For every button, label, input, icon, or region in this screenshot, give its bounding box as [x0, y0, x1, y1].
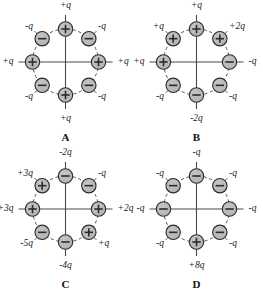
charge-leader-tick — [166, 90, 168, 92]
panel-c-stage: -2q-q+2q+q-4q-5q+3q+3q — [0, 147, 131, 272]
charge-s-negative — [189, 88, 203, 102]
charge-sw-negative — [166, 225, 181, 240]
charge-ne-positive — [213, 31, 228, 46]
charge-s-negative — [58, 235, 72, 249]
panel-b-diagram — [131, 0, 262, 125]
charge-e-positive — [91, 55, 105, 69]
charge-s-positive — [189, 235, 203, 249]
charge-panel-d: -q-q-q-q+8q-q-q-q D — [131, 147, 262, 294]
charge-label-nw: -q — [156, 170, 164, 180]
charge-leader-tick — [35, 90, 37, 92]
charge-leader-tick — [94, 237, 96, 239]
charge-se-positive — [82, 225, 97, 240]
panel-a-stage: +q-q+q-q+q-q+q-q — [0, 0, 131, 125]
charge-leader-tick — [35, 237, 37, 239]
charge-sw-negative — [35, 225, 50, 240]
charge-leader-tick — [35, 31, 37, 33]
charge-w-positive — [25, 202, 39, 216]
charge-label-nw: +q — [153, 23, 164, 32]
charge-label-se: -q — [98, 92, 106, 102]
charge-label-n: -q — [193, 148, 201, 158]
charge-label-w: +q — [133, 57, 144, 67]
charge-n-negative — [189, 169, 203, 183]
panel-b-stage: +q+2q-q-q-2q-q+q+q — [131, 0, 262, 125]
charge-label-e: -q — [249, 204, 257, 214]
charge-label-e: -q — [249, 57, 257, 67]
charge-e-positive — [91, 202, 105, 216]
panel-c-diagram — [0, 147, 131, 272]
charge-leader-tick — [166, 31, 168, 33]
figure-root: +q-q+q-q+q-q+q-q A +q+2q-q-q-2q-q+q+q B … — [0, 0, 263, 294]
charge-panel-c: -2q-q+2q+q-4q-5q+3q+3q C — [0, 147, 131, 294]
panel-b-caption: B — [131, 131, 262, 143]
charge-sw-negative — [35, 78, 50, 93]
charge-leader-tick — [94, 178, 96, 180]
panel-d-stage: -q-q-q-q+8q-q-q-q — [131, 147, 262, 272]
charge-n-positive — [58, 22, 72, 36]
charge-label-sw: -q — [156, 239, 164, 249]
charge-leader-tick — [225, 90, 227, 92]
charge-ne-negative — [213, 178, 228, 193]
charge-leader-tick — [166, 178, 168, 180]
charge-n-positive — [189, 22, 203, 36]
charge-label-se: -q — [229, 239, 237, 249]
charge-label-w: +q — [2, 57, 13, 67]
charge-label-nw: -q — [25, 23, 33, 32]
charge-se-negative — [213, 225, 228, 240]
charge-panel-b: +q+2q-q-q-2q-q+q+q B — [131, 0, 262, 147]
charge-label-s: -2q — [190, 114, 203, 124]
charge-label-s: +q — [60, 114, 71, 124]
charge-label-n: +q — [60, 1, 71, 11]
charge-label-sw: -q — [156, 92, 164, 102]
charge-ne-negative — [82, 178, 97, 193]
charge-sw-negative — [166, 78, 181, 93]
charge-nw-positive — [35, 178, 50, 193]
panel-d-caption: D — [131, 278, 262, 290]
charge-label-se: +q — [98, 239, 109, 249]
charge-leader-tick — [166, 237, 168, 239]
charge-label-e: +q — [118, 57, 129, 67]
charge-leader-tick — [94, 31, 96, 33]
charge-label-n: -2q — [59, 148, 72, 158]
panel-a-diagram — [0, 0, 131, 125]
charge-leader-tick — [225, 31, 227, 33]
panel-c-caption: C — [0, 278, 131, 290]
charge-leader-tick — [225, 237, 227, 239]
charge-leader-tick — [35, 178, 37, 180]
charge-label-ne: -q — [98, 170, 106, 180]
charge-label-ne: -q — [229, 170, 237, 180]
charge-nw-negative — [166, 178, 181, 193]
charge-n-negative — [58, 169, 72, 183]
charge-w-positive — [25, 55, 39, 69]
charge-s-positive — [58, 88, 72, 102]
charge-label-s: +8q — [189, 261, 205, 271]
charge-w-negative — [156, 202, 170, 216]
charge-label-ne: +2q — [229, 23, 245, 32]
charge-label-w: +3q — [0, 204, 14, 214]
charge-leader-tick — [225, 178, 227, 180]
charge-e-negative — [222, 202, 236, 216]
charge-label-ne: -q — [98, 23, 106, 32]
charge-label-n: +q — [191, 1, 202, 11]
charge-se-negative — [82, 78, 97, 93]
charge-label-sw: -q — [25, 92, 33, 102]
charge-e-negative — [222, 55, 236, 69]
charge-label-w: -q — [137, 204, 145, 214]
charge-se-negative — [213, 78, 228, 93]
charge-leader-tick — [94, 90, 96, 92]
charge-nw-negative — [35, 31, 50, 46]
charge-label-nw: +3q — [17, 170, 33, 180]
panel-a-caption: A — [0, 131, 131, 143]
charge-panel-a: +q-q+q-q+q-q+q-q A — [0, 0, 131, 147]
charge-w-positive — [156, 55, 170, 69]
panel-d-diagram — [131, 147, 262, 272]
charge-label-s: -4q — [59, 261, 72, 271]
charge-label-sw: -5q — [20, 239, 33, 249]
charge-label-se: -q — [229, 92, 237, 102]
charge-nw-positive — [166, 31, 181, 46]
charge-ne-negative — [82, 31, 97, 46]
